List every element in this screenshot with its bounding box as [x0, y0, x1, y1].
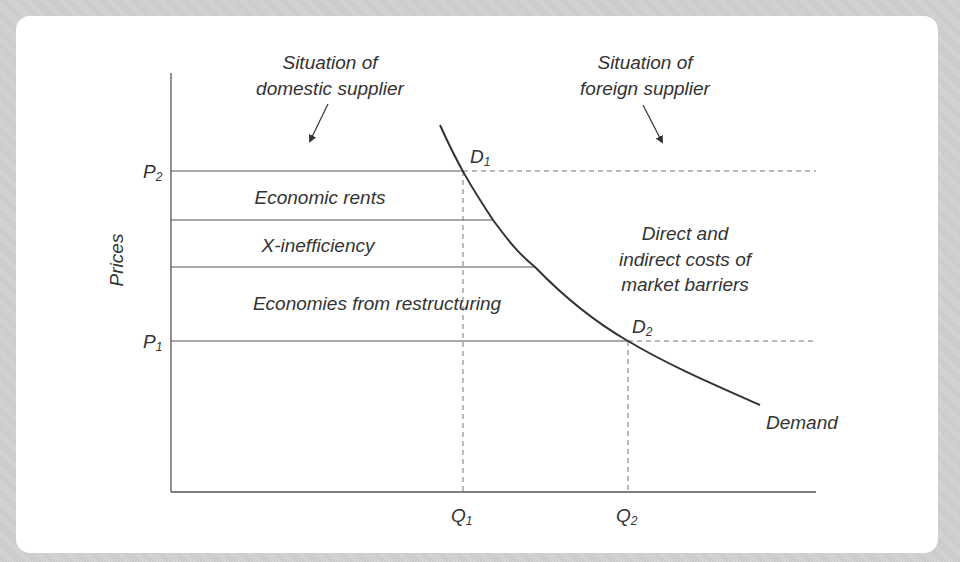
- q1-tick-label: Q1: [451, 505, 472, 528]
- q2-tick-label: Q2: [616, 505, 638, 528]
- costs-label-line1: Direct and: [642, 223, 730, 244]
- y-axis-label: Prices: [106, 233, 127, 286]
- p1-tick-label: P1: [143, 331, 162, 354]
- x-inefficiency-label: X-inefficiency: [261, 235, 376, 256]
- costs-label-line3: market barriers: [621, 274, 749, 295]
- d2-point-label: D2: [632, 316, 653, 339]
- domestic-label-line1: Situation of: [282, 52, 379, 73]
- d1-point-label: D1: [470, 146, 490, 169]
- p2-tick-label: P2: [143, 161, 163, 184]
- economic-rents-label: Economic rents: [255, 187, 386, 208]
- domestic-label-line2: domestic supplier: [256, 78, 405, 99]
- foreign-label-line2: foreign supplier: [580, 78, 711, 99]
- foreign-arrow-icon: [643, 105, 662, 142]
- demand-diagram: Situation of domestic supplier Situation…: [0, 0, 960, 562]
- foreign-label-line1: Situation of: [597, 52, 694, 73]
- costs-label-line2: indirect costs of: [619, 249, 753, 270]
- economies-label: Economies from restructuring: [253, 293, 502, 314]
- domestic-arrow-icon: [310, 104, 328, 141]
- demand-label: Demand: [766, 412, 839, 433]
